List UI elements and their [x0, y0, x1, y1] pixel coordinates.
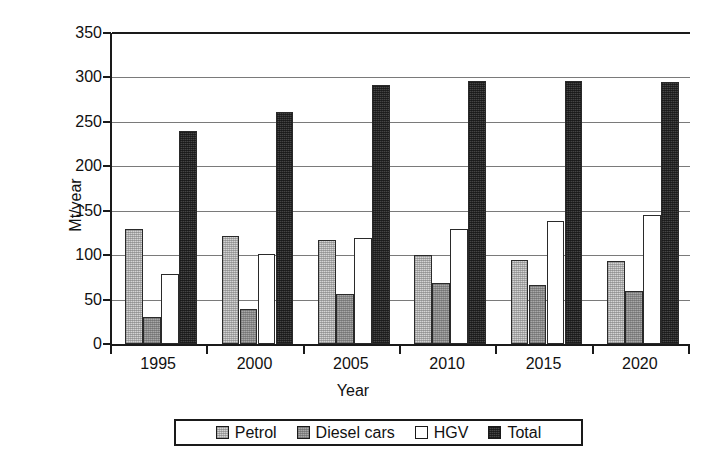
legend-swatch-icon-diesel-cars [297, 426, 310, 439]
x-axis-title: Year [0, 382, 706, 400]
legend-swatch-icon-total [488, 426, 501, 439]
x-tick-label-2010: 2010 [407, 355, 487, 373]
legend-swatch-icon-petrol [216, 426, 229, 439]
bar-total-2015 [565, 81, 583, 344]
bar-hgv-2000 [258, 254, 276, 344]
legend-label: Diesel cars [316, 425, 395, 441]
legend-item-hgv[interactable]: HGV [415, 425, 469, 441]
bar-total-2010 [468, 81, 486, 344]
legend-label: Petrol [235, 425, 277, 441]
bar-petrol-2020 [607, 261, 625, 344]
bar-group-2020 [594, 33, 690, 344]
x-tick-label-1995: 1995 [118, 355, 198, 373]
bar-diesel-cars-2000 [240, 309, 258, 344]
bar-group-2015 [497, 33, 593, 344]
x-tick-mark-3 [495, 346, 497, 354]
bar-diesel-cars-2020 [625, 291, 643, 344]
y-tick-label-300: 300 [56, 69, 102, 85]
x-tick-mark-origin [110, 346, 112, 354]
bar-hgv-2020 [643, 215, 661, 344]
chart-legend: PetrolDiesel carsHGVTotal [174, 419, 583, 446]
legend-label: HGV [434, 425, 469, 441]
bar-hgv-2010 [450, 229, 468, 344]
bar-group-2010 [401, 33, 497, 344]
bar-diesel-cars-1995 [143, 317, 161, 344]
bar-group-2005 [305, 33, 401, 344]
y-tick-label-200: 200 [56, 158, 102, 174]
x-tick-mark-5 [688, 346, 690, 354]
y-tick-label-350: 350 [56, 25, 102, 41]
legend-item-diesel-cars[interactable]: Diesel cars [297, 425, 395, 441]
y-tick-label-50: 50 [56, 292, 102, 308]
x-tick-label-2005: 2005 [311, 355, 391, 373]
x-tick-mark-1 [303, 346, 305, 354]
bar-group-1995 [112, 33, 208, 344]
legend-label: Total [507, 425, 541, 441]
bar-total-2020 [661, 82, 679, 344]
bar-petrol-2015 [511, 260, 529, 344]
x-tick-mark-0 [206, 346, 208, 354]
bar-petrol-2010 [414, 255, 432, 344]
y-tick-label-0: 0 [56, 336, 102, 352]
y-tick-label-100: 100 [56, 247, 102, 263]
bar-petrol-2005 [318, 240, 336, 344]
x-tick-label-2020: 2020 [600, 355, 680, 373]
x-tick-label-2015: 2015 [504, 355, 584, 373]
plot-area [110, 33, 690, 346]
legend-item-petrol[interactable]: Petrol [216, 425, 277, 441]
bar-hgv-2005 [354, 238, 372, 344]
bar-diesel-cars-2005 [336, 294, 354, 344]
x-tick-mark-2 [399, 346, 401, 354]
bar-diesel-cars-2015 [529, 285, 547, 344]
legend-swatch-icon-hgv [415, 426, 428, 439]
bar-total-2005 [372, 85, 390, 344]
chart-figure: Mt/year 050100150200250300350 1995200020… [0, 0, 706, 469]
bar-petrol-1995 [125, 229, 143, 345]
bar-total-2000 [276, 112, 294, 344]
y-tick-label-150: 150 [56, 203, 102, 219]
legend-item-total[interactable]: Total [488, 425, 541, 441]
bar-diesel-cars-2010 [432, 283, 450, 344]
bar-total-1995 [179, 131, 197, 344]
x-tick-label-2000: 2000 [215, 355, 295, 373]
plot-inner [112, 33, 690, 344]
bar-group-2000 [208, 33, 304, 344]
bar-hgv-2015 [547, 221, 565, 344]
y-tick-label-250: 250 [56, 114, 102, 130]
x-tick-mark-4 [592, 346, 594, 354]
bar-petrol-2000 [222, 236, 240, 344]
bar-hgv-1995 [161, 274, 179, 344]
